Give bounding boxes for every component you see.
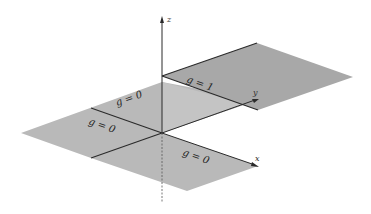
- z-axis-label: z: [166, 15, 172, 24]
- y-axis-label: y: [252, 88, 258, 97]
- diagram-canvas: z y x g = 1 g = 0 g = 0 g = 0: [0, 0, 371, 214]
- x-axis-label: x: [255, 154, 260, 163]
- z-axis-arrow-icon: [160, 16, 164, 23]
